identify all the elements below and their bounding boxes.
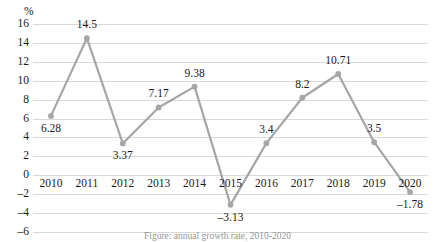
data-label-2020: –1.78	[397, 199, 423, 211]
x-axis-tick-label: 2010	[39, 178, 62, 190]
y-axis-tick-label: 16	[18, 18, 30, 30]
plot-area: 6.2814.53.377.179.38–3.133.48.210.713.5–…	[33, 24, 428, 232]
figure-caption: Figure: annual growth rate, 2010-2020	[0, 232, 435, 242]
data-label-2010: 6.28	[41, 123, 61, 135]
chart-container: % 1614121086420–2–4–6 6.2814.53.377.179.…	[0, 0, 435, 242]
y-axis-tick-label: 0	[23, 170, 29, 182]
data-point-marker	[84, 35, 90, 41]
y-axis-tick-label: 6	[23, 113, 29, 125]
data-label-2015: –3.13	[218, 212, 244, 224]
x-axis-tick-label: 2019	[363, 178, 386, 190]
y-axis-tick-label: 2	[23, 151, 29, 163]
data-point-marker	[299, 95, 305, 101]
data-point-marker	[335, 71, 341, 77]
data-point-marker	[264, 140, 270, 146]
data-label-2012: 3.37	[113, 150, 133, 162]
data-label-2018: 10.71	[325, 55, 351, 67]
x-axis: 2010201120122013201420152016201720182019…	[33, 178, 428, 192]
data-point-marker	[156, 105, 162, 111]
data-point-marker	[371, 139, 377, 145]
y-axis-tick-label: –4	[18, 207, 30, 219]
y-axis-tick-label: 10	[18, 75, 30, 87]
data-label-2016: 3.4	[259, 124, 273, 136]
data-point-marker	[48, 113, 54, 119]
y-axis-tick-label: 8	[23, 94, 29, 106]
y-axis-tick-label: 12	[18, 56, 30, 68]
x-axis-tick-label: 2020	[399, 178, 422, 190]
x-axis-tick-label: 2011	[76, 178, 99, 190]
data-label-2011: 14.5	[77, 19, 97, 31]
x-axis-tick-label: 2012	[111, 178, 134, 190]
data-point-marker	[228, 202, 234, 208]
data-point-marker	[192, 84, 198, 90]
data-label-2013: 7.17	[149, 88, 169, 100]
y-axis: 1614121086420–2–4–6	[0, 24, 29, 232]
data-label-2019: 3.5	[367, 123, 381, 135]
data-label-2017: 8.2	[295, 79, 309, 91]
y-axis-tick-label: –2	[18, 188, 30, 200]
x-axis-tick-label: 2018	[327, 178, 350, 190]
data-point-marker	[120, 141, 126, 147]
x-axis-tick-label: 2013	[147, 178, 170, 190]
x-axis-tick-label: 2014	[183, 178, 206, 190]
x-axis-tick-label: 2016	[255, 178, 278, 190]
y-axis-tick-label: 14	[18, 37, 30, 49]
y-axis-tick-label: 4	[23, 132, 29, 144]
figure-caption-strip: Figure: annual growth rate, 2010-2020	[0, 232, 435, 242]
x-axis-tick-label: 2017	[291, 178, 314, 190]
data-label-2014: 9.38	[185, 68, 205, 80]
x-axis-tick-label: 2015	[219, 178, 242, 190]
y-axis-unit-label: %	[24, 6, 34, 18]
